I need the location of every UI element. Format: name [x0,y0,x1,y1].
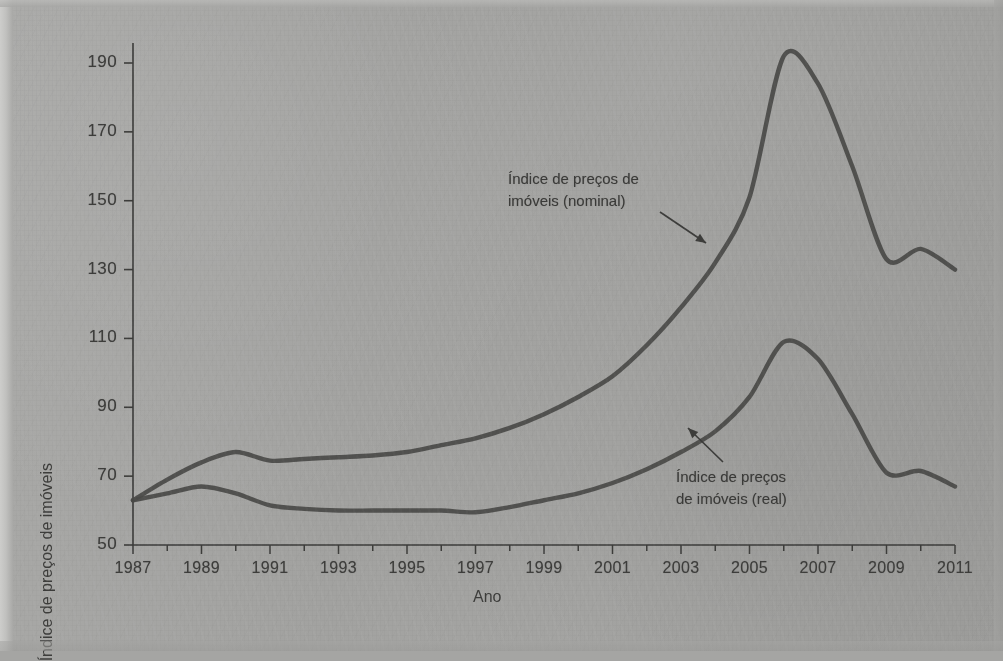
annotation-nominal: Índice de preços de imóveis (nominal) [508,168,639,212]
y-axis-tick-label: 90 [75,396,117,416]
y-axis-tick-label: 170 [75,121,117,141]
scan-edge-top [0,0,1003,7]
x-axis-tick-label: 2011 [925,559,985,577]
x-axis-tick-label: 1999 [514,559,574,577]
scan-edge-bottom [0,641,1003,651]
y-axis-tick-label: 190 [75,52,117,72]
annotation-arrows-group [660,212,723,462]
y-axis-title-wrap: Índice de preços de imóveis [38,175,60,445]
annotation-real-line1: Índice de preços [676,466,787,488]
annotation-arrow-head-nominal [695,234,706,243]
y-axis-tick-label: 110 [75,327,117,347]
x-axis-tick-label: 2009 [857,559,917,577]
x-axis-tick-label: 2003 [651,559,711,577]
y-axis-title: Índice de preços de imóveis [38,463,56,661]
x-axis-tick-label: 1995 [377,559,437,577]
x-axis-tick-label: 1997 [446,559,506,577]
x-axis-tick-label: 1987 [103,559,163,577]
annotation-nominal-line2: imóveis (nominal) [508,190,639,212]
y-axis-tick-label: 50 [75,534,117,554]
series-line-real [133,340,955,512]
x-axis-tick-label: 1993 [309,559,369,577]
x-axis-tick-label: 2001 [583,559,643,577]
axes-group [124,43,955,554]
annotation-real-line2: de imóveis (real) [676,488,787,510]
x-axis-title: Ano [473,588,501,606]
scan-edge-right [994,0,1003,651]
series-line-nominal [133,51,955,500]
x-axis-tick-label: 1989 [172,559,232,577]
x-axis-tick-label: 2005 [720,559,780,577]
y-axis-tick-label: 150 [75,190,117,210]
x-axis-tick-label: 1991 [240,559,300,577]
annotation-nominal-line1: Índice de preços de [508,168,639,190]
x-axis-tick-label: 2007 [788,559,848,577]
scan-edge-left [0,0,13,651]
y-axis-tick-label: 70 [75,465,117,485]
y-axis-tick-label: 130 [75,259,117,279]
series-group [133,51,955,512]
annotation-real: Índice de preços de imóveis (real) [676,466,787,510]
